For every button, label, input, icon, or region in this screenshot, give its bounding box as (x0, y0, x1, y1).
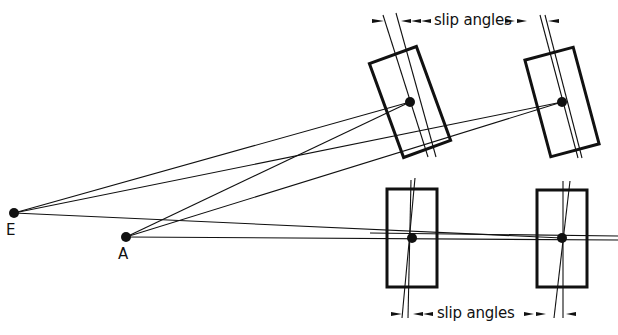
point-a-marker (121, 232, 131, 242)
arrow-icon (391, 312, 402, 316)
point-e-marker (9, 208, 19, 218)
ray-a-to-front-right (126, 102, 562, 237)
wheel-rear-right-axes (554, 181, 570, 318)
slip-angle-diagram (0, 0, 618, 335)
ray-e-to-front-right (14, 102, 562, 213)
arrow-icon (421, 19, 431, 23)
wheel-rear-left-center (407, 233, 417, 243)
arrow-icon (566, 312, 576, 316)
ray-lines (14, 102, 618, 240)
arrow-icon (548, 19, 559, 23)
arrow-icon (372, 19, 384, 23)
wheel-rear-right-center (557, 233, 567, 243)
arrow-icon (536, 312, 546, 316)
point-e-label: E (6, 221, 15, 239)
wheel-front-left-axes (383, 13, 436, 157)
arrow-icon (413, 312, 423, 316)
arrow-icon (411, 19, 421, 23)
wheel-rear-left-axes (370, 178, 618, 318)
point-a-label: A (118, 245, 128, 263)
arrow-icon (524, 312, 534, 316)
bottom-slip-angles-label: slip angles (437, 304, 515, 322)
wheel-front-right-center (557, 97, 567, 107)
arrow-icon (423, 312, 433, 316)
arrow-icon (401, 19, 411, 23)
wheel-front-left-center (405, 97, 415, 107)
top-slip-angles-label: slip angles (434, 11, 512, 29)
arrow-icon (517, 19, 527, 23)
